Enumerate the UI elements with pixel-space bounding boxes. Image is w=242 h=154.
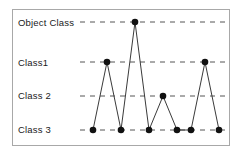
ytick-label-class2: Class 2 <box>18 91 51 101</box>
ytick-label-class1: Class1 <box>18 58 48 68</box>
ytick-label-object-class: Object Class <box>18 18 74 28</box>
ytick-label-class3: Class 3 <box>18 125 51 135</box>
chart-figure: Object Class Class1 Class 2 Class 3 Clas… <box>0 0 242 154</box>
